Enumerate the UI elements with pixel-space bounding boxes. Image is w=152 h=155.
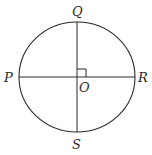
label-r: R [137, 70, 148, 85]
label-p: P [3, 70, 13, 85]
label-q: Q [72, 4, 83, 19]
label-s: S [72, 137, 81, 152]
label-o: O [79, 80, 90, 95]
right-angle-marker [77, 69, 86, 77]
circle-diagram: Q S P R O [0, 0, 152, 155]
